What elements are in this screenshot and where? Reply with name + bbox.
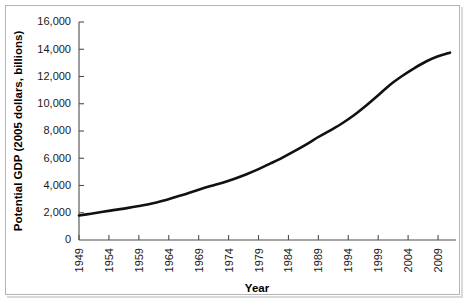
x-tick-label: 1974: [223, 248, 235, 272]
x-axis-tick-labels: 1949195419591964196919741979198419891994…: [73, 248, 444, 272]
x-tick-label: 1959: [133, 248, 145, 272]
y-tick-label: 2,000: [43, 206, 71, 218]
x-tick-label: 2004: [402, 248, 414, 272]
y-tick-label: 8,000: [43, 124, 71, 136]
x-axis-title: Year: [245, 282, 270, 294]
y-tick-label: 0: [65, 233, 71, 245]
x-tick-label: 1964: [163, 248, 175, 272]
x-tick-label: 1984: [282, 248, 294, 272]
x-tick-label: 1989: [312, 248, 324, 272]
x-tick-label: 1994: [342, 248, 354, 272]
line-chart: Potential GDP (2005 dollars, billions) 0…: [0, 0, 467, 307]
y-tick-label: 16,000: [37, 15, 71, 27]
y-tick-label: 6,000: [43, 152, 71, 164]
y-axis-title: Potential GDP (2005 dollars, billions): [12, 31, 24, 232]
x-tick-label: 1999: [372, 248, 384, 272]
y-tick-label: 12,000: [37, 70, 71, 82]
x-tick-label: 1979: [253, 248, 265, 272]
y-tick-label: 4,000: [43, 179, 71, 191]
chart-screenshot: Potential GDP (2005 dollars, billions) 0…: [0, 0, 467, 307]
x-tick-label: 1949: [73, 248, 85, 272]
x-tick-label: 2009: [432, 248, 444, 272]
x-tick-label: 1954: [103, 248, 115, 272]
y-tick-label: 10,000: [37, 97, 71, 109]
x-tick-label: 1969: [193, 248, 205, 272]
potential-gdp-line: [79, 53, 450, 216]
y-tick-label: 14,000: [37, 43, 71, 55]
y-axis-ticks: [79, 22, 84, 213]
y-axis-tick-labels: 02,0004,0006,0008,00010,00012,00014,0001…: [37, 15, 71, 245]
x-axis-ticks: [79, 235, 438, 240]
